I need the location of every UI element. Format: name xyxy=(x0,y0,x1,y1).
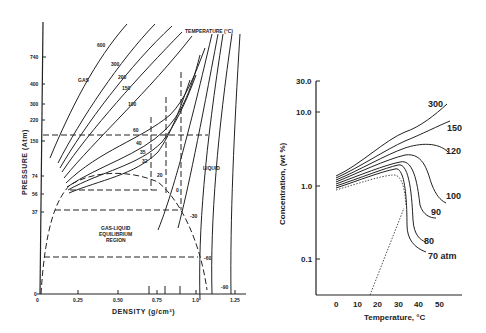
svg-text:1.0: 1.0 xyxy=(192,297,199,303)
pressure-curves xyxy=(336,104,450,295)
right-y-axis-title: Concentration, (wt %) xyxy=(278,142,287,225)
svg-text:0: 0 xyxy=(176,187,179,193)
pressure-curve-labels: 300 150 120 100 90 80 70 atm xyxy=(424,99,462,261)
svg-text:120: 120 xyxy=(446,146,461,156)
svg-text:20: 20 xyxy=(157,172,163,178)
right-chart: 30.0 10.0 1.0 0.1 Concentration, (wt %) … xyxy=(278,77,462,322)
svg-text:80: 80 xyxy=(424,236,434,246)
svg-text:74: 74 xyxy=(32,173,38,179)
left-y-axis-title: PRESSURE (Atm) xyxy=(21,129,29,195)
left-chart: 740 400 300 220 150 74 56 37 0 PRESSURE … xyxy=(21,22,246,316)
svg-text:600: 600 xyxy=(97,42,106,48)
svg-text:30.0: 30.0 xyxy=(296,77,312,86)
svg-text:10.0: 10.0 xyxy=(296,108,312,117)
svg-text:0.25: 0.25 xyxy=(73,297,83,303)
left-x-axis-title: DENSITY (g/cm³) xyxy=(112,308,175,316)
legend-title: TEMPERATURE (°C) xyxy=(185,28,233,34)
svg-text:1.0: 1.0 xyxy=(301,182,313,191)
svg-text:400: 400 xyxy=(30,81,39,87)
svg-text:37: 37 xyxy=(32,209,38,215)
svg-text:32: 32 xyxy=(142,158,148,164)
figure: 740 400 300 220 150 74 56 37 0 PRESSURE … xyxy=(0,0,486,333)
svg-text:0: 0 xyxy=(36,297,39,303)
svg-text:90: 90 xyxy=(431,207,441,217)
svg-text:300: 300 xyxy=(428,99,443,109)
svg-text:220: 220 xyxy=(30,117,39,123)
svg-text:1.25: 1.25 xyxy=(230,297,240,303)
left-y-axis xyxy=(40,22,43,294)
left-y-tick-labels: 740 400 300 220 150 74 56 37 0 xyxy=(30,54,39,297)
svg-text:-90: -90 xyxy=(221,284,228,290)
svg-text:0.50: 0.50 xyxy=(113,297,123,303)
svg-text:30: 30 xyxy=(394,300,403,309)
svg-text:0: 0 xyxy=(334,300,339,309)
svg-text:40: 40 xyxy=(414,300,423,309)
svg-text:70 atm: 70 atm xyxy=(428,251,457,261)
svg-text:35: 35 xyxy=(140,149,146,155)
svg-text:0.75: 0.75 xyxy=(152,297,162,303)
svg-text:-60: -60 xyxy=(204,255,211,261)
svg-text:100: 100 xyxy=(446,191,461,201)
svg-text:150: 150 xyxy=(447,123,462,133)
svg-text:56: 56 xyxy=(32,191,38,197)
svg-text:10: 10 xyxy=(353,300,362,309)
svg-text:150: 150 xyxy=(122,85,131,91)
svg-text:100: 100 xyxy=(128,101,137,107)
svg-text:0.1: 0.1 xyxy=(301,255,313,264)
dotted-line xyxy=(370,208,404,295)
left-x-tick-labels: 0 0.25 0.50 0.75 1.0 1.25 xyxy=(36,297,240,303)
svg-text:60: 60 xyxy=(133,127,139,133)
svg-text:40: 40 xyxy=(136,140,142,146)
right-x-axis-title: Temperature, °C xyxy=(364,313,426,322)
dotted-curve xyxy=(336,175,406,205)
svg-text:300: 300 xyxy=(30,101,39,107)
svg-text:-30: -30 xyxy=(190,213,197,219)
svg-text:20: 20 xyxy=(373,300,382,309)
svg-text:200: 200 xyxy=(118,74,127,80)
svg-text:300: 300 xyxy=(111,61,120,67)
svg-text:740: 740 xyxy=(30,54,39,60)
region-label-3: REGION xyxy=(106,237,126,243)
svg-text:150: 150 xyxy=(30,138,39,144)
svg-text:50: 50 xyxy=(435,300,444,309)
